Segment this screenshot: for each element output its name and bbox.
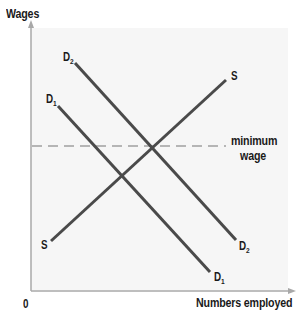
d2-bottom-label: D2 [239, 240, 249, 255]
d1-top-label: D1 [46, 93, 56, 108]
d1-sub: 1 [53, 99, 56, 108]
y-axis-label: Wages [6, 7, 39, 20]
d1-bottom-label: D1 [214, 271, 224, 286]
s-bottom-label: S [41, 239, 47, 251]
d1-sub: 1 [221, 277, 224, 286]
x-axis-arrow-icon [288, 288, 296, 294]
s-top-label: S [231, 70, 237, 82]
origin-label: 0 [23, 298, 28, 310]
d2-sub: 2 [246, 246, 249, 255]
d2-sub: 2 [70, 57, 73, 66]
minimum-wage-label-line2: wage [240, 149, 266, 162]
minimum-wage-label-line1: minimum [231, 134, 277, 147]
x-axis-label: Numbers employed [196, 296, 292, 309]
y-axis-arrow-icon [28, 20, 34, 28]
d2-top-label: D2 [63, 51, 73, 66]
